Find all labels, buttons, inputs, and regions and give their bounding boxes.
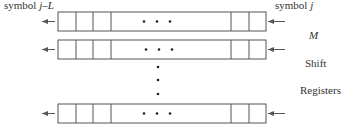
output-arrow-head: [42, 47, 48, 52]
label-prefix: symbol: [4, 0, 39, 11]
register-box: [58, 40, 266, 59]
ellipsis-dot: [158, 48, 161, 51]
vertical-ellipsis-dot: [157, 79, 160, 82]
label-prefix: symbol: [275, 0, 310, 11]
ellipsis-dot: [156, 112, 159, 115]
ellipsis-dot: [143, 20, 146, 23]
label-m: M: [309, 29, 318, 41]
input-arrow-head: [268, 47, 274, 52]
register-box: [58, 12, 266, 31]
input-arrow-head: [268, 111, 274, 116]
label-symbol-j: symbol j: [275, 0, 313, 11]
register-box: [58, 104, 266, 123]
label-var: j: [310, 0, 313, 11]
output-arrow-head: [42, 111, 48, 116]
label-shift: Shift: [305, 57, 326, 69]
label-registers: Registers: [300, 84, 341, 96]
label-var: j–L: [39, 0, 54, 11]
ellipsis-dot: [143, 112, 146, 115]
ellipsis-dot: [171, 48, 174, 51]
output-arrow-head: [42, 19, 48, 24]
ellipsis-dot: [169, 112, 172, 115]
vertical-ellipsis-dot: [157, 93, 160, 96]
shift-register-diagram: [0, 0, 346, 129]
shift-register-row: [42, 12, 285, 31]
ellipsis-dot: [145, 48, 148, 51]
input-arrow-head: [268, 19, 274, 24]
label-symbol-j-minus-l: symbol j–L: [4, 0, 54, 11]
shift-register-row: [42, 40, 285, 59]
ellipsis-dot: [169, 20, 172, 23]
ellipsis-dot: [156, 20, 159, 23]
shift-register-row: [42, 104, 285, 123]
vertical-ellipsis-dot: [157, 66, 160, 69]
